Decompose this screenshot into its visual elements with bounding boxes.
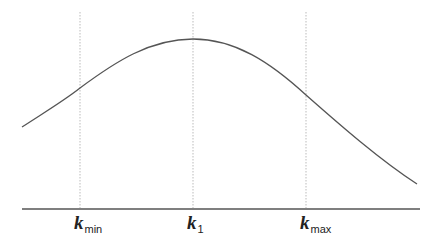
label-kmin-subscript: min bbox=[85, 223, 103, 235]
response-curve bbox=[22, 39, 417, 184]
label-k1-subscript: 1 bbox=[198, 223, 204, 235]
label-k1-symbol: k bbox=[187, 212, 197, 233]
label-kmax-subscript: max bbox=[311, 223, 332, 235]
label-kmax: kmax bbox=[300, 212, 331, 240]
label-kmax-symbol: k bbox=[300, 212, 310, 233]
label-k1: k1 bbox=[187, 212, 204, 240]
label-kmin-symbol: k bbox=[74, 212, 84, 233]
diagram-canvas bbox=[0, 0, 440, 246]
label-kmin: kmin bbox=[74, 212, 102, 240]
